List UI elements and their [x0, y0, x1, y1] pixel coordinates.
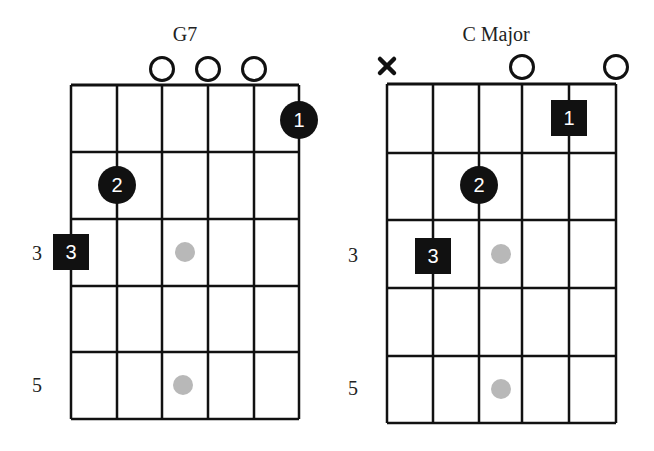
finger-number: 2 [473, 174, 484, 196]
finger-marker-2: 2 [98, 166, 136, 204]
finger-number: 3 [427, 245, 438, 267]
finger-number: 3 [65, 241, 76, 263]
inlay-dot-icon [175, 242, 195, 262]
chord-title-c-major: C Major [462, 23, 529, 46]
chord-title-g7: G7 [173, 23, 197, 46]
finger-marker-3: 3 [415, 238, 451, 274]
inlay-dot-icon [173, 375, 193, 395]
finger-number: 1 [563, 107, 574, 129]
chord-g7: 123 [53, 58, 318, 420]
finger-marker-3: 3 [53, 234, 89, 270]
inlay-dot-icon [491, 379, 511, 399]
open-string-icon [151, 58, 174, 81]
fret-label-5-g7: 5 [32, 374, 42, 397]
fret-label-3-g7: 3 [32, 242, 42, 265]
chord-diagrams: 123123 G7 3 5 C Major 3 5 [0, 0, 654, 451]
fret-label-5-c-major: 5 [348, 377, 358, 400]
open-string-icon [197, 58, 220, 81]
open-string-icon [605, 56, 628, 79]
chord-canvas: 123123 [0, 0, 654, 451]
fret-label-3-c-major: 3 [348, 244, 358, 267]
finger-number: 2 [111, 174, 122, 196]
finger-number: 1 [293, 109, 304, 131]
chord-c-major: 123 [380, 56, 628, 424]
open-string-icon [243, 58, 266, 81]
inlay-dot-icon [491, 244, 511, 264]
finger-marker-2: 2 [460, 166, 498, 204]
muted-string-icon [380, 59, 394, 73]
finger-marker-1: 1 [551, 100, 587, 136]
open-string-icon [511, 56, 534, 79]
finger-marker-1: 1 [280, 101, 318, 139]
